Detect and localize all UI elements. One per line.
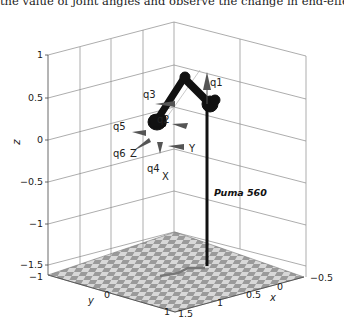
- joint-arrows: [132, 72, 211, 154]
- y-axis-label: y: [87, 295, 95, 306]
- z-tick: 1: [37, 49, 43, 60]
- label-frame-x: X: [162, 171, 169, 182]
- x-tick: 0.5: [246, 289, 261, 300]
- z-tick: −0.5: [20, 176, 43, 187]
- z-axis-label: z: [11, 139, 22, 146]
- label-q5: q5: [113, 121, 126, 132]
- label-q6: q6: [113, 148, 126, 159]
- label-frame-z: Z: [130, 148, 137, 159]
- label-q4: q4: [147, 163, 160, 174]
- z-tick: 0.5: [28, 92, 43, 103]
- y-tick: 0: [104, 289, 110, 300]
- label-q2: q2: [157, 114, 170, 125]
- z-tick: −1.5: [20, 259, 43, 270]
- label-q1: q1: [210, 77, 223, 88]
- z-tick: −1: [29, 218, 43, 229]
- x-tick: 1: [217, 297, 223, 308]
- x-tick: 0: [277, 281, 283, 292]
- label-q3: q3: [143, 89, 156, 100]
- y-tick: 1: [164, 306, 170, 317]
- robot-name-label: Puma 560: [214, 187, 267, 198]
- x-axis-label: x: [269, 292, 276, 303]
- y-tick: −1: [29, 271, 43, 282]
- x-tick: −0.5: [310, 272, 333, 283]
- label-frame-y: Y: [188, 143, 196, 154]
- z-tick: 0: [37, 134, 43, 145]
- x-tick: 1.5: [178, 308, 193, 319]
- floor-checkerboard: [48, 232, 304, 312]
- z-axis: 1 0.5 0 −0.5 −1 −1.5 z: [11, 49, 48, 275]
- puma-3d-plot: 1 0.5 0 −0.5 −1 −1.5 z −1 0 1 y 1.5 1 0.…: [0, 0, 344, 331]
